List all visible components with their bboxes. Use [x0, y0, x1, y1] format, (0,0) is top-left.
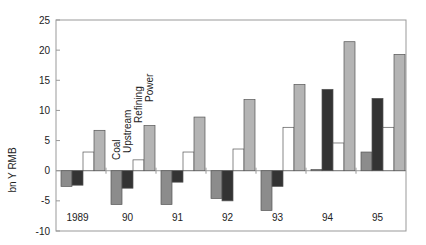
bar-power — [94, 130, 105, 170]
legend-label-coal: Coal — [111, 139, 122, 160]
bar-coal — [361, 152, 372, 171]
y-tick-label: -5 — [41, 195, 50, 206]
category-label: 90 — [122, 212, 134, 223]
category-label: 92 — [222, 212, 234, 223]
legend-label-power: Power — [144, 73, 155, 102]
bar-power — [294, 85, 305, 171]
y-tick-label: 10 — [39, 105, 51, 116]
category-label: 1989 — [66, 212, 89, 223]
bar-coal — [111, 171, 122, 205]
category-label: 93 — [272, 212, 284, 223]
category-labels: 1989909192939495 — [66, 212, 383, 223]
bar-refining — [133, 160, 144, 171]
bar-series — [61, 42, 405, 211]
legend-label-upstream: Upstream — [122, 110, 133, 153]
y-axis-title: bn Y RMB — [7, 147, 18, 193]
bar-upstream — [72, 171, 83, 185]
bar-upstream — [172, 171, 183, 182]
y-tick-label: 5 — [44, 135, 50, 146]
y-tick-label: -10 — [36, 226, 51, 237]
bar-upstream — [222, 171, 233, 201]
bar-upstream — [122, 171, 133, 188]
bar-power — [394, 54, 405, 170]
bar-power — [244, 100, 255, 171]
legend-label-refining: Refining — [133, 86, 144, 123]
category-label: 91 — [172, 212, 184, 223]
bar-power — [194, 117, 205, 171]
bar-power — [344, 42, 355, 171]
bar-refining — [183, 152, 194, 171]
bar-refining — [83, 152, 94, 171]
bar-power — [144, 126, 155, 171]
bar-refining — [383, 127, 394, 170]
y-tick-label: 20 — [39, 45, 51, 56]
y-tick-label: 15 — [39, 75, 51, 86]
category-label: 94 — [322, 212, 334, 223]
y-tick-label: 0 — [44, 165, 50, 176]
bar-upstream — [372, 98, 383, 170]
bar-chart: -10-50510152025 1989909192939495 CoalUps… — [0, 0, 426, 245]
bar-coal — [161, 171, 172, 205]
bar-refining — [333, 143, 344, 171]
y-tick-label: 25 — [39, 15, 51, 26]
bar-refining — [233, 149, 244, 171]
bar-upstream — [272, 171, 283, 187]
bar-coal — [311, 170, 322, 171]
bar-coal — [261, 171, 272, 211]
category-label: 95 — [372, 212, 384, 223]
bar-coal — [61, 171, 72, 187]
bar-upstream — [322, 89, 333, 170]
bar-refining — [283, 127, 294, 170]
bar-coal — [211, 171, 222, 199]
